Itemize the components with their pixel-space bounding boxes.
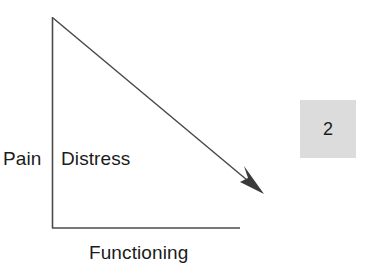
- trend-arrow-head: [240, 166, 264, 194]
- figure-number-label: 2: [323, 120, 333, 138]
- x-axis-label-functioning: Functioning: [89, 243, 188, 262]
- axes-group: [52, 17, 240, 228]
- figure-root: Pain Distress Functioning 2: [0, 0, 380, 271]
- figure-number-box: 2: [300, 100, 356, 158]
- y-axis-label-distress: Distress: [61, 149, 130, 168]
- y-axis-label-pain: Pain: [3, 149, 41, 168]
